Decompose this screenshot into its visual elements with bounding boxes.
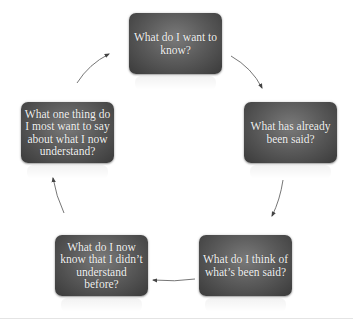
- arrow-n1-to-n2: [231, 56, 262, 88]
- node-what-do-i-want-to-know: What do I want to know?: [129, 13, 222, 74]
- node-what-do-i-now-know: What do I now know that I didn’t underst…: [55, 235, 148, 296]
- arrow-n2-to-n3: [272, 180, 283, 216]
- node-what-has-already-been-said: What has already been said?: [244, 102, 337, 163]
- node-label: What do I now know that I didn’t underst…: [58, 241, 145, 291]
- node-what-do-i-think: What do I think of what’s been said?: [199, 235, 292, 296]
- node-what-one-thing: What one thing do I most want to say abo…: [21, 102, 114, 163]
- node-label: What has already been said?: [247, 120, 334, 145]
- node-label: What do I want to know?: [132, 31, 219, 56]
- node-label: What one thing do I most want to say abo…: [24, 108, 111, 158]
- arrow-n4-to-n5: [53, 178, 64, 213]
- cycle-diagram: What do I want to know? What has already…: [0, 0, 353, 321]
- arrow-n5-to-n1: [77, 54, 109, 83]
- node-label: What do I think of what’s been said?: [202, 253, 289, 278]
- arrow-n3-to-n4: [153, 279, 195, 281]
- divider: [0, 318, 353, 319]
